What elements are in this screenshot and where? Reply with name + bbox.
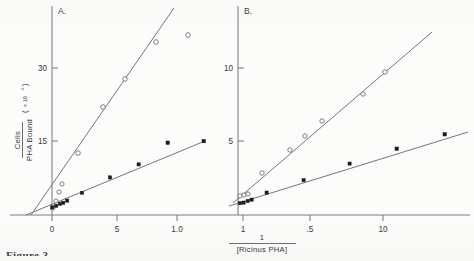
figure-canvas: 30 15 0 5 1.0 A. (0, 0, 474, 261)
data-point (361, 92, 365, 96)
data-point-outlier (186, 33, 191, 38)
x-axis-denominator: [Ricinus PHA] (237, 245, 288, 254)
panel-a-label: A. (58, 6, 66, 16)
data-point (58, 202, 61, 205)
y-axis-paren-open: ( (20, 110, 29, 113)
data-point (76, 151, 81, 156)
data-point (288, 148, 292, 152)
data-point (395, 147, 398, 150)
data-point (154, 40, 159, 45)
data-point (348, 162, 351, 165)
panel-b-fitline-filled (229, 132, 468, 206)
y-axis-scale-exponent: -6 (20, 87, 25, 91)
data-point-outlier (383, 70, 388, 75)
panel-a-ytick-label-15: 15 (38, 137, 48, 146)
x-axis-numerator: 1 (260, 233, 265, 242)
panel-b-fitline-open (233, 32, 432, 203)
panel-b: 10 5 1 .5 10 B. (214, 6, 470, 234)
data-point (246, 199, 249, 202)
panel-b-ytick-label-5: 5 (228, 137, 233, 146)
data-point (51, 206, 54, 209)
x-axis-label-group: 1 [Ricinus PHA] (229, 233, 296, 254)
y-axis-label-group: Cells PHA Bound ( × 10 -6 ) (13, 83, 34, 161)
data-point (202, 139, 205, 142)
data-point (137, 163, 140, 166)
data-point (80, 191, 83, 194)
panel-a-series-open-circle (51, 33, 190, 210)
data-point (54, 199, 58, 203)
panel-a-xtick-label-0: 0 (50, 225, 55, 234)
data-point (320, 119, 324, 123)
data-point (250, 198, 253, 201)
data-point (60, 182, 64, 186)
data-point (62, 201, 65, 204)
panel-b-series-open-circle (238, 70, 387, 198)
panel-b-xtick-label-10: 10 (378, 225, 388, 234)
data-point (108, 176, 111, 179)
scanned-figure-page: 30 15 0 5 1.0 A. (0, 0, 474, 261)
data-point (246, 192, 250, 196)
panel-a-fitline-filled (26, 141, 205, 215)
data-point (260, 171, 264, 175)
y-axis-paren-close: ) (20, 83, 29, 86)
data-point (238, 202, 241, 205)
y-axis-scale-label: × 10 (22, 96, 28, 107)
panel-b-label: B. (244, 6, 252, 16)
panel-b-xtick-label-1: 1 (241, 225, 246, 234)
panel-b-ytick-label-10: 10 (224, 64, 234, 73)
data-point (242, 201, 245, 204)
data-point (443, 133, 446, 136)
y-axis-scale-group: ( × 10 -6 ) (20, 83, 29, 113)
y-axis-denominator: PHA Bound (25, 119, 34, 161)
data-point-outlier (265, 191, 268, 194)
panel-b-series-filled-square (238, 133, 446, 205)
data-point-outlier (166, 141, 169, 144)
panel-a: 30 15 0 5 1.0 A. (10, 6, 214, 234)
data-point (302, 179, 305, 182)
data-point (57, 190, 61, 194)
data-point (123, 77, 128, 82)
data-point (55, 204, 58, 207)
data-point (238, 194, 242, 198)
panel-a-ytick-label-30: 30 (38, 64, 48, 73)
panel-a-xtick-label-10: 1.0 (171, 225, 183, 234)
data-point (101, 105, 106, 110)
data-point (66, 199, 69, 202)
panel-a-series-filled-square (51, 139, 206, 209)
panel-a-xtick-label-5: 5 (115, 225, 120, 234)
data-point (242, 193, 246, 197)
data-point (303, 134, 307, 138)
panel-b-xtick-label-5: .5 (307, 225, 314, 234)
y-axis-numerator: Cells (13, 131, 22, 149)
